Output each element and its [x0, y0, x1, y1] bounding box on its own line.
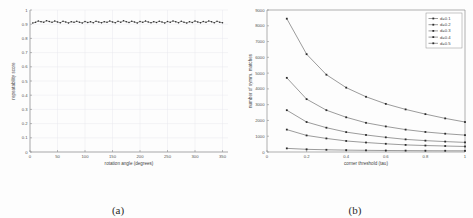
data-point [326, 127, 328, 129]
data-point [211, 21, 213, 23]
y-tick-label: 9000 [255, 8, 265, 13]
y-tick-label: 8000 [255, 23, 265, 28]
y-tick-label: 0.7 [22, 50, 28, 55]
series-line-d=0.3 [287, 110, 465, 142]
x-tick-label: 0 [266, 154, 269, 159]
data-point [112, 21, 114, 23]
x-tick-label: 0.4 [343, 154, 349, 159]
data-point [425, 150, 427, 152]
data-point [150, 22, 152, 24]
data-point [73, 22, 75, 24]
data-point [117, 21, 119, 23]
legend-marker-d=0.1 [432, 18, 434, 20]
data-point [49, 21, 51, 23]
data-point [172, 20, 174, 22]
data-point [145, 20, 147, 22]
chart-a-svg: 00.10.20.30.40.50.60.70.80.9105010015020… [0, 0, 236, 190]
data-point [365, 96, 367, 98]
legend-label-d=0.1: d=0.1 [440, 16, 451, 21]
data-point [444, 141, 446, 143]
data-point [128, 22, 130, 24]
y-tick-label: 6000 [255, 55, 265, 60]
series-line-d=0.5 [287, 148, 465, 150]
y-tick-label: 0.8 [22, 36, 28, 41]
data-point [115, 22, 117, 24]
data-point [405, 129, 407, 131]
data-point [203, 21, 205, 23]
data-point [306, 121, 308, 123]
chart-a-plot: 00.10.20.30.40.50.60.70.80.9105010015020… [0, 0, 236, 190]
y-tick-label: 5000 [255, 71, 265, 76]
data-point [345, 131, 347, 133]
y-tick-label: 0.1 [22, 135, 28, 140]
data-point [345, 116, 347, 118]
x-tick-label: 0.8 [422, 154, 428, 159]
data-point [425, 131, 427, 133]
data-point [95, 20, 97, 22]
data-point [194, 20, 196, 22]
data-point [286, 77, 288, 79]
data-point [142, 22, 144, 24]
data-point [464, 134, 466, 136]
y-tick-label: 1000 [255, 134, 265, 139]
x-tick-label: 200 [137, 154, 145, 159]
data-point [286, 18, 288, 20]
legend-marker-d=0.3 [432, 30, 434, 32]
data-point [90, 21, 92, 23]
x-tick-label: 50 [55, 154, 60, 159]
data-point [186, 22, 188, 24]
data-point [137, 22, 139, 24]
y-tick-label: 4000 [255, 86, 265, 91]
y-tick-label: 0.5 [22, 79, 28, 84]
legend-marker-d=0.4 [432, 36, 434, 38]
y-tick-label: 3000 [255, 102, 265, 107]
data-point [101, 22, 103, 24]
y-tick-label: 0.6 [22, 64, 28, 69]
y-tick-label: 1 [25, 8, 28, 13]
data-point [326, 138, 328, 140]
data-point [365, 134, 367, 136]
data-point [51, 22, 53, 24]
data-point [345, 140, 347, 142]
data-point [326, 74, 328, 76]
data-point [208, 20, 210, 22]
data-point [464, 146, 466, 148]
y-tick-label: 0.3 [22, 107, 28, 112]
data-point [38, 20, 40, 22]
data-point [214, 22, 216, 24]
y-tick-label: 2000 [255, 118, 265, 123]
data-point [405, 150, 407, 152]
data-point [464, 121, 466, 123]
data-point [156, 22, 158, 24]
data-point [82, 22, 84, 24]
data-point [365, 142, 367, 144]
panel-a: 00.10.20.30.40.50.60.70.80.9105010015020… [0, 0, 236, 218]
data-point [385, 126, 387, 128]
data-point [405, 138, 407, 140]
data-point [164, 22, 166, 24]
data-point [183, 21, 185, 23]
data-point [84, 21, 86, 23]
x-tick-label: 350 [219, 154, 227, 159]
legend-marker-d=0.5 [432, 42, 434, 44]
y-axis-label: number of symm. matches [248, 53, 253, 108]
data-point [192, 22, 194, 24]
x-tick-label: 300 [192, 154, 200, 159]
data-point [161, 21, 163, 23]
data-point [444, 133, 446, 135]
legend-marker-d=0.2 [432, 24, 434, 26]
data-point [425, 113, 427, 115]
data-point [32, 22, 34, 24]
data-point [62, 20, 64, 22]
data-point [71, 21, 73, 23]
data-point [200, 22, 202, 24]
data-point [104, 21, 106, 23]
data-point [68, 22, 70, 24]
data-point [222, 22, 224, 24]
data-point [286, 147, 288, 149]
panel-b-caption: (b) [237, 204, 473, 216]
data-point [405, 109, 407, 111]
data-point [79, 21, 81, 23]
data-point [60, 22, 62, 24]
data-point [219, 21, 221, 23]
